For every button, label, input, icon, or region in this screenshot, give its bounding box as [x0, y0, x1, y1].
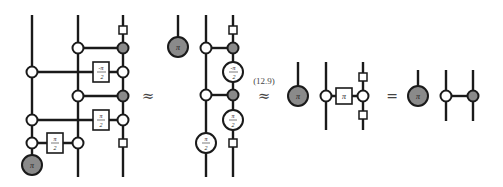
- white-spider: [27, 138, 38, 149]
- white-spider: [321, 91, 332, 102]
- phase-denominator: 2: [233, 74, 236, 80]
- white-spider: [118, 67, 129, 78]
- phase-denominator: 2: [54, 145, 57, 151]
- approx-symbol: ≈: [142, 87, 155, 105]
- hadamard-square: [359, 111, 367, 119]
- white-spider: [73, 138, 84, 149]
- gray-spider: [118, 43, 129, 54]
- circuit-4: π: [408, 70, 479, 121]
- hadamard-square: [119, 26, 127, 34]
- hadamard-square: [229, 139, 237, 147]
- phase-denominator: 2: [101, 74, 104, 80]
- equals-symbol: =: [386, 88, 398, 104]
- white-spider: [73, 91, 84, 102]
- hadamard-square: [119, 139, 127, 147]
- circuit-1: -π 2 π 2 π 2 π: [22, 15, 129, 177]
- zx-diagram: -π 2 π 2 π 2 π ≈ π: [0, 0, 503, 187]
- white-spider: [73, 43, 84, 54]
- hadamard-square: [359, 73, 367, 81]
- hadamard-square: [229, 26, 237, 34]
- white-spider: [118, 115, 129, 126]
- white-spider: [358, 91, 369, 102]
- approx-symbol: ≈: [258, 87, 271, 105]
- white-spider: [201, 90, 212, 101]
- white-spider: [441, 91, 452, 102]
- phase-denominator: 2: [100, 122, 103, 128]
- phase-denominator: 2: [232, 122, 235, 128]
- white-spider: [27, 115, 38, 126]
- gray-spider: [118, 91, 129, 102]
- white-spider: [201, 43, 212, 54]
- gray-spider: [228, 90, 239, 101]
- circuit-3: π π: [288, 62, 369, 130]
- phase-denominator: 2: [205, 145, 208, 151]
- white-spider: [27, 67, 38, 78]
- gray-spider: [468, 91, 479, 102]
- circuit-2: π -π 2 π 2 π 2: [168, 15, 243, 177]
- gray-spider: [228, 43, 239, 54]
- equation-reference: (12.9): [253, 76, 275, 86]
